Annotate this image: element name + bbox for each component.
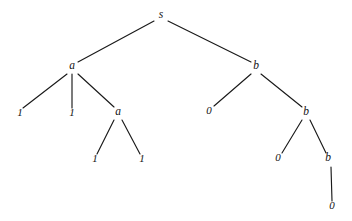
tree-node-b-lowest: b	[325, 151, 331, 163]
tree-node-b-right: b	[253, 59, 259, 71]
tree-edge-innerb-b	[310, 120, 326, 153]
tree-edge-innera-one-right	[122, 120, 140, 154]
tree-node-root-s: s	[159, 8, 164, 20]
tree-edge-b-zero	[214, 74, 251, 106]
tree-leaf-zero-1: 0	[206, 104, 212, 116]
tree-edge-s-b	[168, 21, 251, 62]
tree-edge-s-a	[78, 21, 154, 62]
tree-node-a-left: a	[69, 59, 75, 71]
tree-node-a-inner: a	[115, 105, 121, 117]
tree-leaf-one-1: 1	[17, 106, 23, 118]
tree-edge-a-a	[78, 74, 114, 107]
tree-leaf-zero-2: 0	[275, 151, 281, 163]
tree-edge-innera-one-left	[97, 120, 114, 154]
tree-leaf-one-2: 1	[69, 106, 75, 118]
tree-edge-lowestb-zero	[331, 167, 332, 201]
parse-tree-figure: s a b 1 1 a 0 b 1 1 0 b 0	[0, 0, 352, 221]
tree-edge-innerb-zero	[282, 120, 302, 153]
tree-leaf-zero-3: 0	[329, 199, 335, 211]
tree-node-b-inner: b	[303, 105, 309, 117]
tree-nodes-group: s a b 1 1 a 0 b 1 1 0 b 0	[17, 8, 335, 211]
tree-leaf-one-4: 1	[139, 152, 145, 164]
parse-tree-canvas: s a b 1 1 a 0 b 1 1 0 b 0	[0, 0, 352, 221]
tree-edge-a-one-left	[23, 74, 67, 108]
tree-edge-b-b	[261, 74, 302, 107]
tree-leaf-one-3: 1	[92, 152, 98, 164]
